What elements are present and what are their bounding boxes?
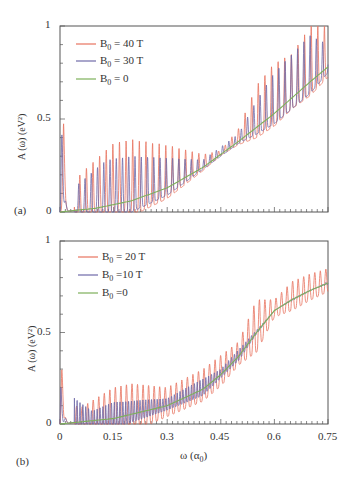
legend-label-40t: B0 = 40 T: [100, 37, 143, 52]
panel-a-legend-lines: [76, 44, 96, 79]
panel-b-ytick-1: 1: [45, 233, 51, 245]
panel-b-ytick-05: 0.5: [37, 325, 51, 337]
panel-b-curves: [60, 269, 328, 424]
panel-b-plot: [60, 241, 328, 424]
panel-b-xtick-045: 0.45: [210, 430, 229, 442]
legend-label-0-b: B0 =0: [102, 286, 128, 301]
legend-label-0-a: B0 = 0: [100, 72, 129, 87]
panel-b-xtick-03: 0.3: [160, 430, 174, 442]
panel-b-xtick-0: 0: [57, 430, 63, 442]
panel-b-xtick-06: 0.6: [267, 430, 281, 442]
figure: [0, 0, 352, 479]
panel-a-ylabel: A (ω) (eV²): [16, 114, 27, 160]
legend-label-30t: B0 = 30 T: [100, 54, 143, 69]
legend-label-20t: B0 = 20 T: [102, 250, 145, 265]
panel-a-ytick-05: 0.5: [37, 111, 51, 123]
panel-a-ytick-1: 1: [45, 18, 51, 30]
panel-a-tag: (a): [14, 204, 26, 216]
panel-b-legend-lines: [78, 257, 98, 293]
panel-b-xtick-015: 0.15: [103, 430, 122, 442]
legend-label-10t: B0 =10 T: [102, 268, 143, 283]
panel-b-xtick-075: 0.75: [318, 430, 337, 442]
panel-b-ytick-0: 0: [46, 416, 52, 428]
panel-a-ytick-0: 0: [46, 204, 52, 216]
panel-b-ylabel: A (ω) (eV²): [26, 326, 37, 372]
panel-b-xlabel: ω (α0): [180, 449, 207, 464]
panel-b-tag: (b): [16, 455, 29, 467]
